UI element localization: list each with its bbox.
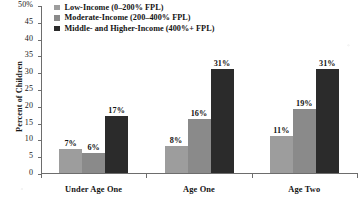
bar <box>59 149 82 173</box>
y-axis-tick-label: 40 <box>25 34 33 43</box>
bar-chart: Percent of Children 50%45403530252015105… <box>0 0 363 197</box>
y-axis-tick: 50% <box>38 6 42 7</box>
bar-value-label: 6% <box>87 143 99 152</box>
bar-value-label: 11% <box>273 126 289 135</box>
y-axis-tick-label: 25 <box>25 84 33 93</box>
y-axis-tick-label: 15 <box>25 118 33 127</box>
bar-value-label: 16% <box>191 109 208 118</box>
legend-item: Middle- and Higher-Income (400%+ FPL) <box>54 23 214 34</box>
y-axis-tick: 40 <box>38 40 42 41</box>
bar-value-label: 31% <box>214 59 231 68</box>
bar <box>165 146 188 173</box>
legend-item-label: Moderate-Income (200–400% FPL) <box>65 13 191 22</box>
legend-item-label: Low-Income (0–200% FPL) <box>65 3 164 12</box>
y-axis-tick: 20 <box>38 107 42 108</box>
bar <box>105 116 128 173</box>
y-axis-tick-label: 5 <box>29 151 33 160</box>
y-axis-tick-label: 10 <box>25 134 33 143</box>
y-axis-tick: 5 <box>38 157 42 158</box>
y-axis-title: Percent of Children <box>15 37 24 157</box>
legend-swatch-icon <box>54 15 60 21</box>
bar <box>211 69 234 173</box>
legend-swatch-icon <box>54 5 60 11</box>
x-axis-category-label: Under Age One <box>65 185 122 194</box>
y-axis-tick: 15 <box>38 124 42 125</box>
legend-item: Low-Income (0–200% FPL) <box>54 2 214 13</box>
x-axis-tick <box>252 173 253 178</box>
y-axis-tick-label: 45 <box>25 17 33 26</box>
bar <box>316 69 339 173</box>
legend-item: Moderate-Income (200–400% FPL) <box>54 13 214 24</box>
bar-value-label: 7% <box>64 139 76 148</box>
legend-item-label: Middle- and Higher-Income (400%+ FPL) <box>65 24 215 33</box>
y-axis-tick-label: 30 <box>25 67 33 76</box>
x-axis-tick <box>357 173 358 178</box>
y-axis-tick: 45 <box>38 23 42 24</box>
y-axis-tick: 30 <box>38 73 42 74</box>
bar <box>270 136 293 173</box>
chart-legend: Low-Income (0–200% FPL)Moderate-Income (… <box>54 2 214 34</box>
y-axis-tick-label: 20 <box>25 101 33 110</box>
y-axis-tick-label: 35 <box>25 50 33 59</box>
bar-value-label: 19% <box>296 99 313 108</box>
bar <box>293 109 316 173</box>
y-axis-tick: 35 <box>38 56 42 57</box>
y-axis-tick-label: 0 <box>29 168 33 177</box>
legend-swatch-icon <box>54 26 60 32</box>
bar <box>82 153 105 173</box>
y-axis-tick: 10 <box>38 140 42 141</box>
bar-value-label: 31% <box>319 59 336 68</box>
x-axis-line <box>41 173 357 174</box>
x-axis-tick <box>41 173 42 178</box>
y-axis-tick: 25 <box>38 90 42 91</box>
y-axis-tick-label: 50% <box>18 0 33 9</box>
x-axis-category-label: Age One <box>183 185 215 194</box>
x-axis-category-label: Age Two <box>288 185 320 194</box>
bar-value-label: 8% <box>170 136 182 145</box>
bar-value-label: 17% <box>108 106 125 115</box>
x-axis-tick <box>146 173 147 178</box>
bar <box>188 119 211 173</box>
